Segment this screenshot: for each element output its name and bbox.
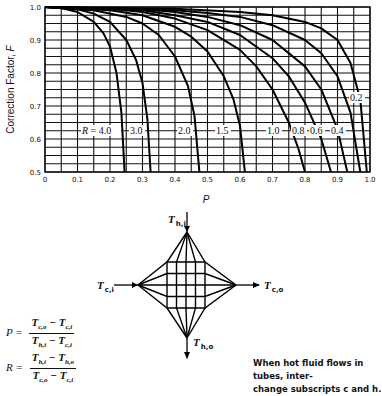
hot-outlet-label: Th,o (193, 336, 213, 351)
formula-r-denominator: Tc,o − Tc,i (30, 369, 76, 386)
formula-p-numerator: Tc,o − Tc,i (29, 316, 74, 334)
cold-inlet-label: Tc,i (97, 279, 114, 294)
flow-diamond (114, 212, 260, 359)
hot-inlet-label: Th,i (168, 213, 186, 228)
formula-p-denominator: Th,i − Tc,i (29, 334, 74, 351)
formula-p-lhs: P = (6, 326, 23, 338)
formula-r-fraction: Th,i − Th,o Tc,o − Tc,i (30, 351, 76, 386)
formula-p-fraction: Tc,o − Tc,i Th,i − Tc,i (29, 316, 74, 351)
svg-text:Th,o: Th,o (193, 336, 213, 351)
formula-r-lhs: R = (6, 361, 23, 373)
note-line-1: When hot fluid flows in tubes, inter- (253, 357, 382, 383)
svg-text:Th,i: Th,i (168, 213, 186, 228)
formula-p: P = Tc,o − Tc,i Th,i − Tc,i (6, 316, 74, 351)
formula-r: R = Th,i − Th,o Tc,o − Tc,i (6, 351, 76, 386)
svg-text:Tc,o: Tc,o (264, 279, 284, 294)
svg-text:Tc,i: Tc,i (97, 279, 114, 294)
note-line-2: change subscripts c and h. (253, 383, 382, 396)
cold-outlet-label: Tc,o (264, 279, 284, 294)
formula-r-numerator: Th,i − Th,o (30, 351, 76, 369)
subscript-note: When hot fluid flows in tubes, inter- ch… (253, 357, 382, 396)
